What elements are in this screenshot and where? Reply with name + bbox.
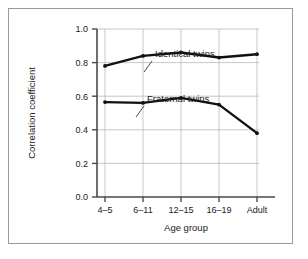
y-tick-label: 0.2: [75, 159, 88, 169]
x-tick-label: 12–15: [168, 205, 193, 215]
x-tick-label: 4–5: [97, 205, 112, 215]
series-annotations: Identical twinsFraternal twins: [136, 48, 215, 117]
data-point: [103, 100, 107, 104]
data-point: [103, 64, 107, 68]
correlation-line-chart: 0.00.20.40.60.81.0 4–56–1112–1516–19Adul…: [9, 9, 292, 243]
y-tick-label: 0.4: [75, 125, 88, 135]
y-tick-label: 0.0: [75, 192, 88, 202]
x-tick-label: Adult: [247, 205, 268, 215]
data-point: [141, 101, 145, 105]
y-tick-label: 0.6: [75, 92, 88, 102]
x-tick-label: 16–19: [206, 205, 231, 215]
x-axis-title: Age group: [164, 222, 208, 233]
x-tick-label: 6–11: [133, 205, 152, 215]
data-point: [217, 56, 221, 60]
y-axis-title: Correlation coefficient: [26, 67, 37, 159]
data-point: [217, 103, 221, 107]
data-point: [255, 131, 259, 135]
data-point: [141, 54, 145, 58]
chart-figure-frame: 0.00.20.40.60.81.0 4–56–1112–1516–19Adul…: [8, 8, 293, 244]
y-axis-ticks: 0.00.20.40.60.81.0: [75, 24, 97, 202]
series-label-1: Identical twins: [155, 48, 215, 59]
series-label-2: Fraternal twins: [147, 93, 210, 104]
x-axis-ticks: 4–56–1112–1516–19Adult: [97, 197, 267, 215]
y-tick-label: 1.0: [75, 24, 88, 34]
data-point: [255, 52, 259, 56]
y-tick-label: 0.8: [75, 58, 88, 68]
